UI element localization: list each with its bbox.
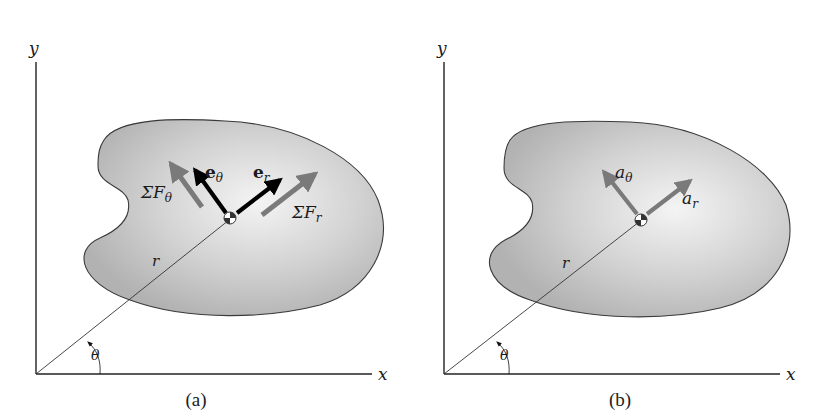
caption-a: (a)	[185, 389, 206, 411]
figure-canvas: y x r θ eθ er ΣFθ ΣFr	[0, 0, 828, 414]
caption-b: (b)	[609, 389, 631, 411]
r-label-a: r	[152, 252, 160, 270]
center-of-mass-icon-b	[635, 214, 647, 226]
theta-label-b: θ	[500, 347, 509, 363]
y-axis-label-a: y	[28, 38, 39, 58]
panel-b: y x r θ aθ ar (b)	[436, 38, 796, 411]
x-axis-label-b: x	[786, 364, 796, 384]
center-of-mass-icon-a	[224, 212, 236, 224]
theta-label-a: θ	[91, 347, 100, 363]
x-axis-label-a: x	[378, 364, 388, 384]
panel-a: y x r θ eθ er ΣFθ ΣFr	[28, 38, 388, 411]
r-label-b: r	[562, 254, 570, 272]
y-axis-label-b: y	[436, 38, 447, 58]
